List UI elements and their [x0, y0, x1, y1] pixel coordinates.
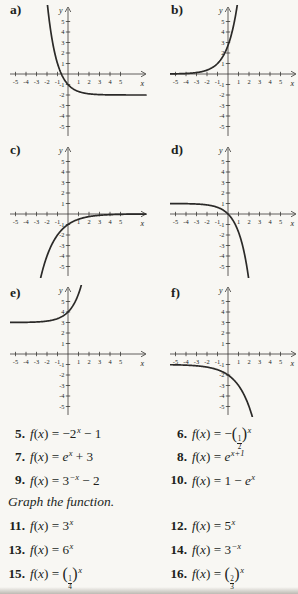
- svg-text:-1: -1: [219, 361, 224, 368]
- svg-text:4: 4: [108, 218, 112, 225]
- svg-text:1: 1: [61, 60, 64, 67]
- exercise-number: 9.: [0, 472, 25, 488]
- svg-text:-1: -1: [59, 361, 64, 368]
- exercise-formula: f(x) = ex + 3: [30, 448, 93, 465]
- exercise-number: 11.: [0, 518, 25, 534]
- svg-text:-3: -3: [34, 358, 39, 365]
- exercise-5: 5.f(x) = −2x − 1: [0, 425, 149, 442]
- svg-text:3: 3: [258, 358, 261, 365]
- svg-text:3: 3: [221, 39, 224, 46]
- x-axis-label: x: [139, 359, 144, 368]
- svg-text:2: 2: [87, 358, 90, 365]
- svg-text:2: 2: [221, 329, 224, 336]
- svg-text:5: 5: [119, 218, 122, 225]
- svg-text:-2: -2: [44, 78, 49, 85]
- exercise-number: 15.: [0, 566, 25, 582]
- svg-text:1: 1: [61, 340, 64, 347]
- exercise-9: 9.f(x) = 3−x − 2: [0, 472, 149, 489]
- y-axis-label: y: [218, 6, 223, 15]
- axes: [10, 147, 146, 276]
- svg-text:3: 3: [98, 218, 101, 225]
- svg-text:1: 1: [61, 200, 64, 207]
- svg-text:-3: -3: [34, 78, 39, 85]
- svg-text:-5: -5: [219, 263, 224, 270]
- svg-text:3: 3: [61, 319, 64, 326]
- svg-text:1: 1: [221, 60, 224, 67]
- exercise-row: 13.f(x) = 6x14.f(x) = 3−x: [0, 537, 298, 561]
- svg-text:-4: -4: [23, 358, 29, 365]
- svg-text:-2: -2: [219, 231, 224, 238]
- svg-text:-5: -5: [173, 218, 178, 225]
- exercise-number: 7.: [0, 449, 25, 465]
- exercise-row: 11.f(x) = 3x12.f(x) = 5x: [0, 513, 298, 537]
- svg-text:-5: -5: [59, 263, 64, 270]
- svg-text:3: 3: [61, 39, 64, 46]
- svg-text:4: 4: [61, 28, 65, 35]
- svg-text:2: 2: [61, 189, 64, 196]
- exercise-row: 7.f(x) = ex + 38.f(x) = ex+1: [0, 444, 298, 467]
- exercise-14: 14.f(x) = 3−x: [149, 541, 298, 558]
- exercise-10: 10.f(x) = 1 − ex: [149, 472, 298, 489]
- svg-text:3: 3: [98, 358, 101, 365]
- svg-text:5: 5: [61, 158, 64, 165]
- svg-text:2: 2: [61, 49, 64, 56]
- graph-plot-e: -5-4-3-2-112345-5-4-3-2-112345yx: [0, 280, 149, 425]
- svg-text:5: 5: [221, 18, 224, 25]
- svg-text:-4: -4: [219, 392, 225, 399]
- svg-text:-4: -4: [219, 252, 225, 259]
- exercise-formula: f(x) = 3−x − 2: [30, 472, 100, 489]
- svg-text:4: 4: [221, 28, 225, 35]
- exercise-12: 12.f(x) = 5x: [149, 517, 298, 534]
- svg-text:-3: -3: [219, 242, 224, 249]
- function-curve-f: [170, 365, 296, 425]
- svg-text:-3: -3: [194, 78, 199, 85]
- svg-text:3: 3: [258, 218, 261, 225]
- svg-text:2: 2: [247, 78, 250, 85]
- svg-text:-5: -5: [219, 123, 224, 130]
- svg-text:-5: -5: [173, 358, 178, 365]
- svg-text:-4: -4: [59, 112, 65, 119]
- svg-text:-2: -2: [204, 218, 209, 225]
- y-axis-label: y: [58, 286, 63, 295]
- svg-text:5: 5: [279, 358, 282, 365]
- x-tick-labels: -5-4-3-2-112345: [173, 358, 282, 365]
- svg-text:5: 5: [279, 78, 282, 85]
- exercise-11: 11.f(x) = 3x: [0, 517, 149, 534]
- section-heading: Graph the function.: [0, 491, 298, 513]
- exercise-number: 12.: [149, 518, 187, 534]
- svg-text:1: 1: [77, 358, 80, 365]
- svg-text:-2: -2: [59, 91, 64, 98]
- svg-text:-1: -1: [59, 81, 64, 88]
- exercise-8: 8.f(x) = ex+1: [149, 448, 298, 465]
- svg-text:-2: -2: [204, 358, 209, 365]
- svg-text:-3: -3: [219, 102, 224, 109]
- svg-text:-1: -1: [219, 81, 224, 88]
- svg-text:2: 2: [87, 78, 90, 85]
- svg-text:4: 4: [268, 218, 272, 225]
- textbook-page: a)-5-4-3-2-112345-5-4-3-2-112345yxb)-5-4…: [0, 0, 298, 594]
- graph-plot-b: -5-4-3-2-112345-5-4-3-2-112345yx: [149, 0, 298, 140]
- x-axis-label: x: [139, 219, 144, 228]
- svg-text:3: 3: [98, 78, 101, 85]
- svg-text:5: 5: [119, 78, 122, 85]
- svg-text:2: 2: [247, 218, 250, 225]
- exercise-formula: f(x) = ex+1: [192, 448, 245, 465]
- svg-text:-5: -5: [13, 218, 18, 225]
- graph-panel-d: d)-5-4-3-2-112345-5-4-3-2-112345yx: [149, 140, 298, 280]
- svg-text:-4: -4: [23, 78, 29, 85]
- svg-text:1: 1: [221, 340, 224, 347]
- graph-panel-e: e)-5-4-3-2-112345-5-4-3-2-112345yx: [0, 280, 149, 425]
- svg-text:-4: -4: [219, 112, 225, 119]
- svg-text:-5: -5: [13, 358, 18, 365]
- graph-panel-b: b)-5-4-3-2-112345-5-4-3-2-112345yx: [149, 0, 298, 140]
- svg-text:-1: -1: [59, 221, 64, 228]
- axes: [170, 287, 296, 415]
- svg-text:2: 2: [87, 218, 90, 225]
- page-bottom-shadow: [0, 587, 298, 594]
- svg-text:-5: -5: [59, 403, 64, 410]
- svg-text:5: 5: [61, 298, 64, 305]
- exercise-formula: f(x) = 5x: [192, 517, 235, 534]
- svg-text:-3: -3: [59, 102, 64, 109]
- svg-text:4: 4: [61, 168, 65, 175]
- exercise-number: 6.: [149, 426, 187, 442]
